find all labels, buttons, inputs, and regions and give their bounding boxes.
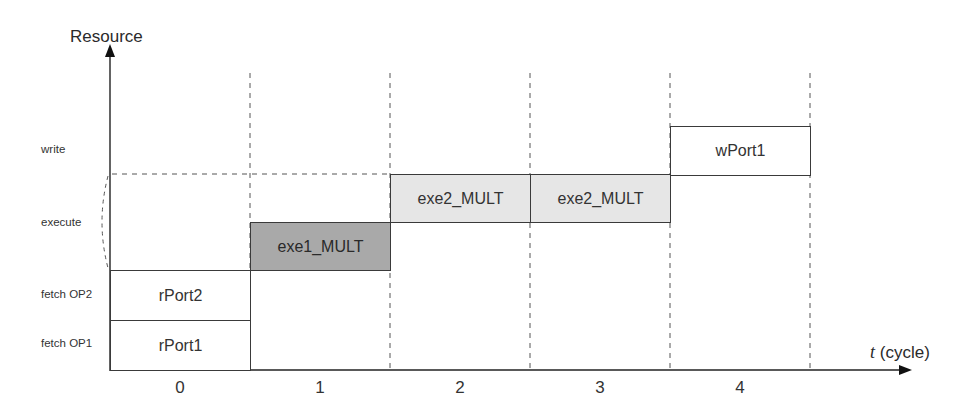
y-axis-title: Resource bbox=[70, 27, 143, 47]
execute-brace bbox=[102, 176, 108, 268]
row-label-execute: execute bbox=[41, 216, 81, 228]
block-rport1: rPort1 bbox=[110, 320, 251, 371]
block-label: exe1_MULT bbox=[278, 238, 364, 256]
tick-cycle-0: 0 bbox=[160, 378, 200, 398]
block-exe2-mult-cycle3: exe2_MULT bbox=[530, 174, 671, 223]
row-label-fetch-op2: fetch OP2 bbox=[41, 288, 92, 300]
block-exe2-mult-cycle2: exe2_MULT bbox=[390, 174, 531, 223]
block-label: rPort1 bbox=[159, 337, 203, 355]
block-label: exe2_MULT bbox=[558, 190, 644, 208]
tick-cycle-4: 4 bbox=[720, 378, 760, 398]
x-axis-arrow-icon bbox=[899, 365, 912, 375]
x-axis-title: t (cycle) bbox=[870, 342, 930, 363]
x-axis-unit: (cycle) bbox=[880, 343, 930, 362]
block-exe1-mult: exe1_MULT bbox=[250, 222, 391, 271]
block-wport1: wPort1 bbox=[670, 126, 811, 176]
row-label-write: write bbox=[41, 143, 65, 155]
block-rport2: rPort2 bbox=[110, 270, 251, 321]
block-label: rPort2 bbox=[159, 287, 203, 305]
block-label: wPort1 bbox=[716, 142, 766, 160]
x-axis-variable: t bbox=[870, 342, 875, 362]
tick-cycle-2: 2 bbox=[440, 378, 480, 398]
tick-cycle-3: 3 bbox=[580, 378, 620, 398]
tick-cycle-1: 1 bbox=[300, 378, 340, 398]
block-label: exe2_MULT bbox=[418, 190, 504, 208]
row-label-fetch-op1: fetch OP1 bbox=[41, 337, 92, 349]
